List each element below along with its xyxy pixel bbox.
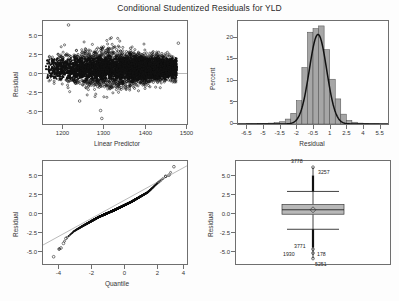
qq-x-tick: 0: [114, 270, 135, 276]
qq-y-tickmark: [38, 232, 42, 233]
boxplot-y-tickmark: [231, 213, 235, 214]
scatter-x-tickmark: [103, 125, 104, 129]
qq-y-tickmark: [38, 194, 42, 195]
boxplot-y-tick: 2.5: [210, 192, 230, 198]
histogram-x-tickmark: [313, 125, 314, 129]
boxplot-y-tick: 0.0: [210, 211, 230, 217]
histogram-bars: [246, 26, 379, 124]
scatter-y-tick: 0.0: [17, 71, 37, 77]
boxplot-svg: [236, 161, 390, 264]
boxplot-outlier-label: 5251: [315, 261, 327, 267]
qq-y-tickmark: [38, 213, 42, 214]
boxplot-outlier-label: 1930: [283, 251, 295, 257]
histogram-x-tickmark: [380, 125, 381, 129]
histogram-svg: [238, 21, 388, 124]
scatter-y-tickmark: [38, 111, 42, 112]
boxplot-outlier-label: 3257: [318, 169, 330, 175]
scatter-y-tick: 2.5: [17, 52, 37, 58]
histogram-plot-area: [238, 21, 388, 124]
qq-y-tick: 0.0: [17, 211, 37, 217]
qq-x-tick: 4: [173, 270, 194, 276]
histogram-y-tick: 20: [213, 34, 233, 40]
histogram-y-tick: 10: [213, 77, 233, 83]
scatter-y-tick: 5.0: [17, 33, 37, 39]
histogram-x-tickmark: [280, 125, 281, 129]
qq-y-tickmark: [38, 175, 42, 176]
scatter-x-tick: 1500: [173, 130, 200, 136]
histogram-x-tickmark: [363, 125, 364, 129]
qq-x-axis-label: Quantile: [62, 280, 172, 287]
scatter-y-tickmark: [38, 92, 42, 93]
boxplot-y-tickmark: [231, 175, 235, 176]
scatter-svg: [43, 21, 187, 124]
boxplot-y-tick: 5.0: [210, 173, 230, 179]
scatter-x-axis-label: Linear Predictor: [62, 140, 172, 147]
qq-points: [52, 165, 175, 258]
boxplot-outlier-label: 178: [317, 251, 326, 257]
histogram-x-tickmark: [330, 125, 331, 129]
panel-residual-histogram: Percent 20 15 10 5 0 -6.5-5-3.5-2-0.512.…: [199, 12, 399, 150]
boxplot-y-tickmark: [231, 194, 235, 195]
boxplot-outlier-label: 3778: [291, 158, 303, 164]
scatter-x-tick: 1300: [90, 130, 117, 136]
scatter-x-tickmark: [186, 125, 187, 129]
histogram-y-tick: 15: [213, 55, 233, 61]
histogram-x-tick: 5.5: [370, 130, 390, 136]
scatter-x-tickmark: [62, 125, 63, 129]
histogram-x-tickmark: [346, 125, 347, 129]
scatter-x-tickmark: [145, 125, 146, 129]
scatter-y-tickmark: [38, 54, 42, 55]
qq-plot-area: [43, 161, 187, 264]
scatter-plot-area: [43, 21, 187, 124]
scatter-y-tickmark: [38, 35, 42, 36]
scatter-y-tick: -5.0: [15, 109, 37, 115]
scatter-y-tickmark: [38, 73, 42, 74]
histogram-y-tickmark: [233, 58, 237, 59]
qq-x-tick: -2: [81, 270, 102, 276]
histogram-y-tickmark: [233, 101, 237, 102]
qq-x-tickmark: [183, 265, 184, 269]
histogram-x-tickmark: [296, 125, 297, 129]
qq-svg: [43, 161, 187, 264]
diagnostics-panel-page: Conditional Studentized Residuals for YL…: [0, 0, 399, 301]
qq-y-tick: -2.5: [15, 230, 37, 236]
scatter-x-tick: 1400: [132, 130, 159, 136]
qq-y-tick: -5.0: [15, 249, 37, 255]
boxplot-plot-area: [236, 161, 390, 264]
boxplot-y-tick: -2.5: [208, 230, 230, 236]
panel-residual-boxplot: Residual 5.0 2.5 0.0 -2.5 -5.0 377832573…: [199, 150, 399, 301]
histogram-y-tickmark: [233, 80, 237, 81]
boxplot-y-tick: -5.0: [208, 249, 230, 255]
qq-y-tick: 2.5: [17, 192, 37, 198]
qq-x-tickmark: [124, 265, 125, 269]
qq-x-tickmark: [91, 265, 92, 269]
histogram-x-axis-label: Residual: [257, 140, 367, 147]
scatter-x-tick: 1200: [49, 130, 76, 136]
qq-x-tickmark: [157, 265, 158, 269]
boxplot-outlier-label: 3771: [294, 243, 306, 249]
boxplot-y-tickmark: [231, 232, 235, 233]
qq-x-tickmark: [58, 265, 59, 269]
qq-x-tick: -4: [48, 270, 69, 276]
scatter-points: [45, 24, 180, 120]
histogram-y-tickmark: [233, 123, 237, 124]
boxplot-geometry: [282, 166, 344, 260]
qq-x-tick: 2: [147, 270, 168, 276]
histogram-y-tick: 5: [213, 99, 233, 105]
histogram-x-tickmark: [246, 125, 247, 129]
panel-qq-plot: Residual 5.0 2.5 0.0 -2.5 -5.0 -4 -2 0 2…: [0, 150, 199, 301]
histogram-y-tick: 0: [213, 120, 233, 126]
scatter-y-tick: -2.5: [15, 90, 37, 96]
panel-residual-vs-predicted: Residual 5.0 2.5 0.0 -2.5 -5.0 1200 1300…: [0, 12, 199, 150]
boxplot-y-tickmark: [231, 251, 235, 252]
qq-y-tickmark: [38, 251, 42, 252]
histogram-y-tickmark: [233, 37, 237, 38]
histogram-x-tickmark: [263, 125, 264, 129]
qq-y-tick: 5.0: [17, 173, 37, 179]
